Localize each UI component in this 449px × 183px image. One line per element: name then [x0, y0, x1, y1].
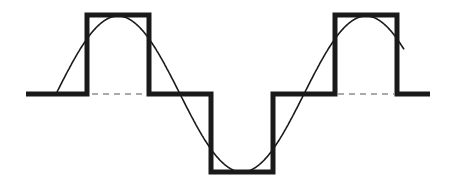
square-sine-diagram	[0, 0, 449, 183]
